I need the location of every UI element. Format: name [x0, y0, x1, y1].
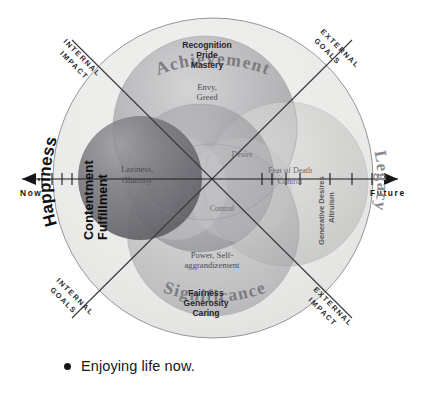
- bullet-dot-icon: [64, 363, 71, 370]
- shadow-control-upper: Control: [278, 177, 303, 186]
- happiness-legacy-diagram: Now Future INTERNAL IMPACT EXTERNAL GOAL…: [0, 0, 427, 350]
- shadow-label-desire: Desire: [232, 150, 253, 159]
- shadow-envy-line1: Envy,: [197, 82, 217, 92]
- shadow-label-power-self-aggrandizement: Power, Self- aggrandizement: [185, 250, 240, 270]
- inner-label-pride: Pride: [196, 50, 218, 60]
- shadow-envy-line2: Greed: [197, 92, 219, 102]
- inner-label-mastery: Mastery: [191, 60, 224, 70]
- screenshot-root: Now Future INTERNAL IMPACT EXTERNAL GOAL…: [0, 0, 427, 394]
- corner-label-internal-goals: INTERNAL GOALS: [47, 276, 96, 325]
- inner-label-fulfillment: Fulfillment: [96, 174, 110, 240]
- shadow-label-envy-greed: Envy, Greed: [197, 82, 219, 102]
- shadow-control: Control: [210, 204, 235, 213]
- inner-label-fairness: Fairness: [188, 288, 224, 298]
- arrow-left-now: [22, 173, 36, 185]
- shadow-desire: Desire: [232, 150, 253, 159]
- shadow-power-line2: aggrandizement: [185, 260, 240, 270]
- inner-label-generosity: Generosity: [184, 298, 229, 308]
- shadow-laziness-line1: Laziness,: [121, 164, 153, 174]
- shadow-laziness-line2: Gluttony: [122, 175, 153, 185]
- quadrant-label-legacy: Legacy: [370, 149, 392, 213]
- shadow-power-line1: Power, Self-: [191, 250, 234, 260]
- shadow-label-laziness-gluttony: Laziness, Gluttony: [121, 164, 153, 185]
- inner-label-generative-desires: Generative Desires: [317, 176, 326, 245]
- bullet-list-item: Enjoying life now.: [64, 358, 195, 374]
- inner-label-recognition: Recognition: [182, 40, 232, 50]
- bullet-item-text: Enjoying life now.: [81, 358, 195, 374]
- inner-label-altruism: Altruism: [327, 192, 336, 223]
- inner-label-contentment: Contentment: [82, 160, 96, 240]
- shadow-fear-of-death: Fear of Death: [268, 166, 312, 175]
- shadow-label-control: Control: [210, 204, 235, 213]
- inner-label-caring: Caring: [192, 308, 219, 318]
